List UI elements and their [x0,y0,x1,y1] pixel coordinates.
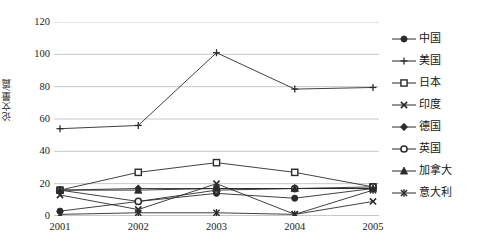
data-point-marker [292,195,298,201]
y-tick-label: 60 [16,114,50,125]
plot-area [54,22,379,216]
series-line-1 [60,53,373,129]
legend-item-7[interactable]: 意大利 [391,182,479,204]
y-tick-label: 20 [16,179,50,190]
open-circle-marker-icon [391,141,417,157]
legend-item-3[interactable]: 印度 [391,94,479,116]
asterisk-marker-icon [391,185,417,201]
legend-item-label: 英国 [417,143,441,155]
open-square-marker-icon [391,75,417,91]
x-tick-label: 2005 [343,221,403,233]
y-tick-label: 40 [16,146,50,157]
y-tick-label: 100 [16,49,50,60]
data-point-marker [401,36,407,42]
x-tick-label: 2004 [265,221,325,233]
chart-figure: 论文量/篇 120100806040200 200120022003200420… [0,0,481,252]
data-point-marker [401,146,407,152]
y-tick-label: 80 [16,82,50,93]
legend-item-label: 中国 [417,33,441,45]
cross-marker-icon [391,97,417,113]
legend-item-label: 美国 [417,55,441,67]
x-axis-tick-labels: 20012002200320042005 [54,221,379,237]
legend-item-label: 日本 [417,77,441,89]
legend-item-label: 意大利 [417,187,452,199]
plus-marker-icon [391,53,417,69]
legend-item-5[interactable]: 英国 [391,138,479,160]
y-tick-label: 0 [16,211,50,222]
x-tick-label: 2001 [30,221,90,233]
y-tick-label: 120 [16,17,50,28]
filled-diamond-marker-icon [391,119,417,135]
legend-item-1[interactable]: 美国 [391,50,479,72]
data-point-marker [401,80,407,86]
x-tick-label: 2002 [108,221,168,233]
data-point-marker [292,169,298,175]
data-point-marker [135,169,141,175]
series-markers [56,49,376,216]
data-point-marker [213,160,219,166]
legend-item-0[interactable]: 中国 [391,28,479,50]
data-point-marker [401,123,408,130]
data-point-marker [135,198,141,204]
chart-svg [54,22,379,216]
chart-legend: 中国美国日本印度德国英国加拿大意大利 [391,28,479,204]
x-tick-label: 2003 [187,221,247,233]
legend-item-label: 印度 [417,99,441,111]
filled-circle-marker-icon [391,31,417,47]
legend-item-4[interactable]: 德国 [391,116,479,138]
legend-item-label: 加拿大 [417,165,452,177]
series-markers-1 [57,49,377,132]
filled-triangle-marker-icon [391,163,417,179]
legend-item-6[interactable]: 加拿大 [391,160,479,182]
legend-item-label: 德国 [417,121,441,133]
legend-item-2[interactable]: 日本 [391,72,479,94]
y-axis-tick-labels: 120100806040200 [14,0,50,252]
